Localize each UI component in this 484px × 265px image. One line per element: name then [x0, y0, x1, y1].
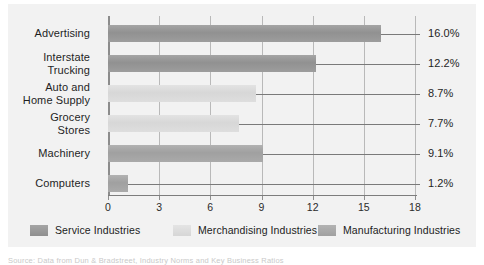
bar-interstate-trucking [108, 55, 316, 72]
chart-legend: Service IndustriesMerchandising Industri… [8, 224, 476, 242]
legend-label: Service Industries [55, 224, 140, 236]
bar-auto-and-home-supply [108, 85, 256, 102]
plot-area [108, 16, 415, 196]
bar-computers [108, 175, 128, 192]
category-label: Grocery Stores [50, 111, 90, 136]
x-tick-label-18: 18 [409, 201, 421, 213]
value-label: 9.1% [428, 147, 453, 159]
value-label: 16.0% [428, 27, 460, 39]
value-leader-line [239, 124, 420, 125]
value-leader-line [381, 34, 420, 35]
x-tick-label-3: 3 [156, 201, 162, 213]
legend-label: Merchandising Industries [198, 224, 317, 236]
value-leader-line [263, 154, 420, 155]
value-leader-line [128, 184, 420, 185]
category-label: Machinery [38, 147, 90, 160]
legend-item-merchandising[interactable]: Merchandising Industries [173, 224, 317, 236]
x-tick-label-12: 12 [307, 201, 319, 213]
x-tick-label-9: 9 [259, 201, 265, 213]
legend-label: Manufacturing Industries [343, 224, 460, 236]
gridline-0 [108, 16, 110, 196]
category-label: Auto and Home Supply [23, 81, 90, 106]
source-caption: Source: Data from Dun & Bradstreet, Indu… [8, 256, 478, 265]
category-label: Interstate Trucking [43, 51, 90, 76]
bar-chart-figure: 0369121518Advertising16.0%Interstate Tru… [0, 0, 484, 265]
legend-item-manufacturing[interactable]: Manufacturing Industries [318, 224, 460, 236]
gridline-6 [210, 16, 211, 196]
x-tick-label-6: 6 [207, 201, 213, 213]
x-tick-label-15: 15 [358, 201, 370, 213]
chart-panel: 0369121518Advertising16.0%Interstate Tru… [8, 4, 476, 247]
category-label: Advertising [34, 27, 90, 40]
gridline-9 [262, 16, 263, 196]
bar-machinery [108, 145, 263, 162]
legend-swatch-icon [318, 225, 336, 236]
x-axis-line [108, 195, 417, 196]
value-label: 8.7% [428, 87, 453, 99]
bar-advertising [108, 25, 381, 42]
value-label: 12.2% [428, 57, 460, 69]
gridline-18 [415, 16, 416, 196]
gridline-3 [159, 16, 160, 196]
gridline-12 [313, 16, 314, 196]
value-leader-line [316, 64, 420, 65]
legend-swatch-icon [30, 225, 48, 236]
gridline-15 [364, 16, 365, 196]
x-tick-label-0: 0 [105, 201, 111, 213]
value-label: 1.2% [428, 177, 453, 189]
value-label: 7.7% [428, 117, 453, 129]
legend-swatch-icon [173, 225, 191, 236]
value-leader-line [256, 94, 420, 95]
legend-item-service[interactable]: Service Industries [30, 224, 140, 236]
bar-grocery-stores [108, 115, 239, 132]
category-label: Computers [35, 177, 90, 190]
